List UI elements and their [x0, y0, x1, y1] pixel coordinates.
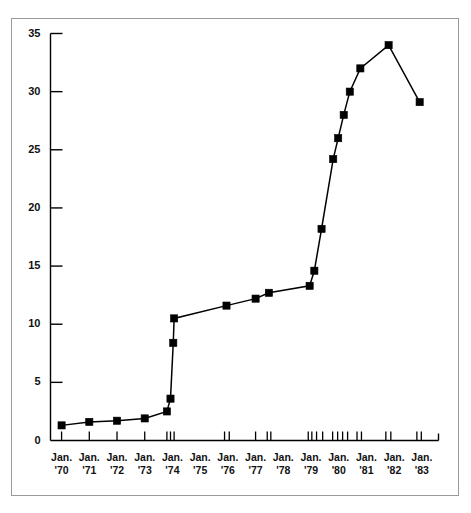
data-point-marker — [330, 155, 337, 162]
data-point-marker — [170, 339, 177, 346]
data-point-marker — [163, 408, 170, 415]
y-axis-tick-label: 10 — [17, 317, 41, 329]
y-axis-tick-label: 30 — [17, 85, 41, 97]
y-axis-tick-label: 20 — [17, 201, 41, 213]
x-axis-tick-label: Jan.'83 — [405, 451, 439, 477]
data-point-marker — [318, 225, 325, 232]
x-tick-month: Jan. — [51, 451, 72, 463]
y-axis-tick-label: 5 — [17, 375, 41, 387]
y-axis-tick-label: 15 — [17, 259, 41, 271]
x-axis-data-ticks — [62, 432, 422, 441]
y-axis-tick-label: 25 — [17, 143, 41, 155]
data-point-marker — [340, 111, 347, 118]
y-axis-ticks — [51, 34, 63, 383]
x-tick-year: '83 — [405, 464, 439, 477]
data-point-marker — [306, 282, 313, 289]
x-tick-month: Jan. — [134, 451, 155, 463]
x-tick-month: Jan. — [217, 451, 238, 463]
x-tick-month: Jan. — [79, 451, 100, 463]
data-point-marker — [167, 395, 174, 402]
x-tick-month: Jan. — [190, 451, 211, 463]
x-tick-month: Jan. — [411, 451, 432, 463]
data-series-line — [62, 45, 420, 425]
data-point-marker — [311, 267, 318, 274]
x-tick-month: Jan. — [245, 451, 266, 463]
x-tick-month: Jan. — [273, 451, 294, 463]
data-point-marker — [113, 417, 120, 424]
x-tick-month: Jan. — [356, 451, 377, 463]
data-point-marker — [416, 99, 423, 106]
data-point-marker — [223, 302, 230, 309]
data-point-marker — [357, 65, 364, 72]
x-tick-month: Jan. — [106, 451, 127, 463]
data-point-marker — [385, 42, 392, 49]
x-tick-month: Jan. — [384, 451, 405, 463]
chart-page: 05101520253035 Jan.'70Jan.'71Jan.'72Jan.… — [0, 0, 471, 513]
data-point-marker — [265, 289, 272, 296]
y-axis-tick-label: 0 — [17, 434, 41, 446]
x-tick-month: Jan. — [162, 451, 183, 463]
x-tick-month: Jan. — [328, 451, 349, 463]
data-point-marker — [58, 422, 65, 429]
data-point-marker — [171, 315, 178, 322]
data-point-marker — [346, 88, 353, 95]
chart-axes — [51, 34, 439, 441]
x-tick-month: Jan. — [300, 451, 321, 463]
data-point-marker — [335, 135, 342, 142]
data-point-marker — [86, 418, 93, 425]
line-chart-plot — [0, 0, 471, 513]
data-point-markers — [58, 42, 423, 429]
y-axis-tick-label: 35 — [17, 27, 41, 39]
data-point-marker — [252, 295, 259, 302]
data-point-marker — [141, 415, 148, 422]
